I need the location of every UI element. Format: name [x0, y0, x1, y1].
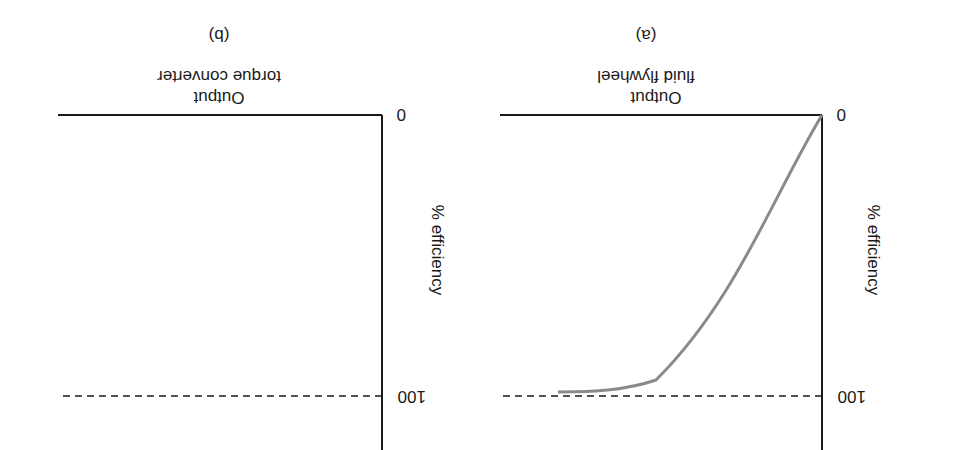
panel-a-y100-tick: 100 [838, 386, 866, 406]
panel-b-label: (b) [179, 25, 259, 45]
figure: 0 100 % efficiency Output fluid flywheel… [0, 0, 956, 450]
panel-a-y0-tick: 0 [837, 104, 846, 124]
panel-a-xlabel-line1: Output [596, 87, 716, 107]
panel-b-xlabel-line1: Output [159, 87, 279, 107]
panel-b-xlabel-line2: torque converter [139, 66, 299, 86]
panel-b-y0-tick: 0 [397, 104, 406, 124]
panel-b-ylabel: % efficiency [427, 205, 447, 295]
panel-a-plot [500, 115, 822, 450]
panel-a-label: (a) [606, 25, 686, 45]
panel-b-y100-tick: 100 [398, 386, 426, 406]
panel-a-xlabel-line2: fluid flywheel [576, 66, 716, 86]
panel-a-ylabel: % efficiency [863, 205, 883, 295]
panel-b-plot [58, 115, 382, 450]
